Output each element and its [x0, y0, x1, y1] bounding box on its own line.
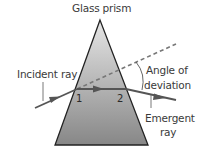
glass-prism-label: Glass prism	[72, 2, 131, 15]
glass-prism	[55, 20, 148, 145]
angle-of-deviation-label-line2: deviation	[144, 79, 191, 92]
point-2-label: 2	[117, 92, 123, 105]
emergent-ray-label-line1: Emergent	[145, 112, 195, 125]
point-1-label: 1	[76, 92, 82, 105]
angle-of-deviation-label-line1: Angle of	[146, 64, 188, 77]
emergent-ray-label-line2: ray	[160, 126, 176, 139]
incident-ray-arrowhead	[49, 97, 60, 104]
incident-ray-label: Incident ray	[17, 68, 77, 81]
prism-diagram: Glass prism Incident ray Angle of deviat…	[0, 0, 202, 161]
deviation-angle-arc	[136, 62, 143, 90]
